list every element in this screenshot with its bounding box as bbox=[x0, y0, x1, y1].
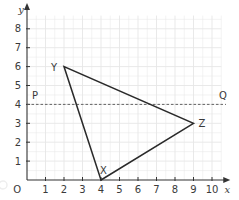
y-tick-label: 1 bbox=[15, 156, 21, 167]
x-tick-label: 10 bbox=[206, 184, 219, 195]
grid bbox=[27, 16, 221, 180]
origin-label: O bbox=[13, 184, 21, 195]
vertex-label-y: Y bbox=[50, 62, 58, 73]
y-tick-label: 4 bbox=[15, 99, 21, 110]
y-tick-label: 6 bbox=[15, 61, 21, 72]
y-axis-label: y bbox=[17, 4, 24, 15]
x-tick-label: 9 bbox=[190, 184, 196, 195]
line-pq: PQ bbox=[27, 90, 227, 104]
x-tick-label: 1 bbox=[42, 184, 48, 195]
y-tick-label: 3 bbox=[15, 118, 21, 129]
y-tick-label: 5 bbox=[15, 80, 21, 91]
x-tick-label: 6 bbox=[135, 184, 141, 195]
label-q: Q bbox=[219, 90, 227, 101]
x-tick-label: 4 bbox=[98, 184, 104, 195]
x-tick-label: 8 bbox=[172, 184, 178, 195]
y-tick-label: 2 bbox=[15, 137, 21, 148]
x-tick-label: 3 bbox=[79, 184, 85, 195]
x-axis-arrow-icon bbox=[223, 177, 230, 183]
x-axis-label: x bbox=[224, 184, 230, 195]
plot-svg: 1234567891012345678Oxy PQ XYZ bbox=[0, 0, 239, 200]
y-axis-arrow-icon bbox=[24, 3, 30, 10]
label-p: P bbox=[32, 90, 38, 101]
y-tick-label: 8 bbox=[15, 23, 21, 34]
x-tick-label: 7 bbox=[153, 184, 159, 195]
x-tick-label: 5 bbox=[116, 184, 122, 195]
vertex-label-x: X bbox=[100, 165, 107, 176]
vertex-label-z: Z bbox=[199, 118, 206, 129]
x-tick-label: 2 bbox=[61, 184, 67, 195]
scan-artifact bbox=[0, 181, 7, 189]
y-tick-label: 7 bbox=[15, 42, 21, 53]
coordinate-diagram: 1234567891012345678Oxy PQ XYZ bbox=[0, 0, 239, 200]
